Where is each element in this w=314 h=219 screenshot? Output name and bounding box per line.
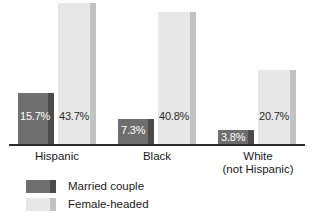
bar-white-female-headed <box>258 70 296 144</box>
swatch-side-face <box>50 180 56 193</box>
x-axis-baseline <box>9 144 305 146</box>
legend-swatch-married-couple <box>26 180 56 193</box>
category-label-text: Hispanic <box>35 150 79 162</box>
legend-item-married-couple: Married couple <box>26 177 149 195</box>
bar-side-face <box>148 119 154 144</box>
category-label-white: White (not Hispanic) <box>216 150 300 176</box>
category-label-hispanic: Hispanic <box>18 150 96 163</box>
swatch-face <box>26 180 50 193</box>
bar-value-black-married-couple: 7.3% <box>121 124 145 136</box>
bar-value-white-female-headed: 20.7% <box>259 110 289 122</box>
bar-group-white: 3.8% 20.7% <box>218 2 296 144</box>
bar-hispanic-female-headed <box>58 3 96 144</box>
bar-value-hispanic-married-couple: 15.7% <box>20 110 50 122</box>
bar-chart: 15.7% 43.7% 7.3% 40.8% <box>0 0 314 219</box>
category-label-text: White <box>243 150 272 162</box>
bar-value-white-married-couple: 3.8% <box>221 131 245 143</box>
bar-side-face <box>248 130 254 144</box>
bar-face <box>158 12 190 144</box>
bar-side-face <box>190 12 196 144</box>
bar-group-hispanic: 15.7% 43.7% <box>18 2 96 144</box>
swatch-side-face <box>50 198 56 211</box>
bar-face <box>258 70 290 144</box>
category-sublabel-text: (not Hispanic) <box>216 163 300 176</box>
bar-value-black-female-headed: 40.8% <box>159 110 189 122</box>
plot-area: 15.7% 43.7% 7.3% 40.8% <box>0 0 314 146</box>
legend-item-female-headed: Female-headed <box>26 195 149 213</box>
bar-group-black: 7.3% 40.8% <box>118 2 196 144</box>
legend-label-married-couple: Married couple <box>68 180 144 192</box>
legend-swatch-female-headed <box>26 198 56 211</box>
legend-label-female-headed: Female-headed <box>68 198 149 210</box>
bar-black-female-headed <box>158 12 196 144</box>
category-label-black: Black <box>118 150 196 163</box>
bar-side-face <box>290 70 296 144</box>
swatch-face <box>26 198 50 211</box>
bar-face <box>58 3 90 144</box>
bar-value-hispanic-female-headed: 43.7% <box>59 110 89 122</box>
category-label-text: Black <box>143 150 171 162</box>
chart-legend: Married couple Female-headed <box>26 177 149 213</box>
bar-side-face <box>90 3 96 144</box>
